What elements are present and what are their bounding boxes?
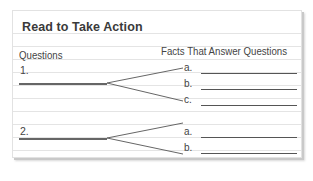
q1-branch-c [107, 83, 183, 101]
branch-connectors [13, 11, 301, 157]
graphic-organizer-card: Read to Take Action Questions Facts That… [12, 10, 302, 158]
q2-branch-b [107, 138, 183, 154]
q2-branch-a [107, 123, 183, 138]
q1-branch-a [107, 68, 183, 83]
